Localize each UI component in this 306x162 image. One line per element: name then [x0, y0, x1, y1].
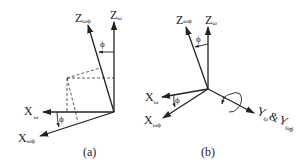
x-w-label: Xω — [24, 104, 39, 121]
y-label: Yω&Yωϕ — [254, 104, 298, 134]
panel-a-caption: (a) — [83, 145, 96, 159]
x-wphi-axis-arrow — [40, 112, 114, 136]
phi-label-bottom: ϕ — [59, 114, 64, 124]
x-wphi-label: Xωϕ — [18, 131, 35, 145]
rotation-arrow-icon — [229, 93, 242, 113]
phi-label-bottom: ϕ — [175, 95, 180, 105]
phi-label-top: ϕ — [196, 34, 201, 44]
z-w-label: Zω — [110, 8, 122, 22]
x-w-label: Xω — [145, 90, 159, 106]
x-wphi-label: Xωϕ — [144, 113, 161, 129]
panel-b-caption: (b) — [201, 145, 215, 159]
y-axis-arrow — [208, 89, 254, 113]
frame-rotation-diagram: ϕ ϕ Zωϕ Zω Xω Xωϕ (a) ϕ ϕ Zωϕ Zω Xω Xωϕ … — [0, 0, 306, 162]
z-wphi-label: Zωϕ — [176, 13, 192, 27]
phi-angle-arc-top — [195, 44, 208, 47]
z-wphi-label: Zωϕ — [75, 11, 91, 25]
panel-b: ϕ ϕ Zωϕ Zω Xω Xωϕ Yω&Yωϕ (b) — [144, 13, 298, 159]
panel-a: ϕ ϕ Zωϕ Zω Xω Xωϕ (a) — [18, 8, 122, 159]
phi-label-top: ϕ — [100, 39, 105, 49]
z-w-label: Zω — [205, 13, 217, 27]
